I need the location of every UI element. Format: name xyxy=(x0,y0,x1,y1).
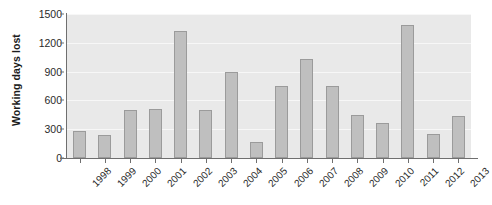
x-tick-mark xyxy=(357,159,358,163)
x-tick-label: 2009 xyxy=(368,166,391,189)
bar[interactable] xyxy=(300,59,313,158)
x-tick-label: 2007 xyxy=(317,166,340,189)
bar[interactable] xyxy=(326,86,339,158)
bar[interactable] xyxy=(452,116,465,158)
bar[interactable] xyxy=(225,72,238,158)
x-tick-mark xyxy=(433,159,434,163)
bar[interactable] xyxy=(401,25,414,158)
x-tick-label: 2005 xyxy=(267,166,290,189)
y-tick-mark xyxy=(60,14,64,15)
x-tick-mark xyxy=(383,159,384,163)
y-tick-mark xyxy=(60,100,64,101)
bar[interactable] xyxy=(73,131,86,158)
x-tick-label: 2002 xyxy=(191,166,214,189)
x-tick-label: 1999 xyxy=(115,166,138,189)
x-tick-mark xyxy=(458,159,459,163)
bar[interactable] xyxy=(124,110,137,158)
x-tick-label: 2012 xyxy=(444,166,467,189)
bars-group xyxy=(67,14,471,158)
bar[interactable] xyxy=(351,115,364,158)
x-tick-mark xyxy=(282,159,283,163)
x-tick-mark xyxy=(231,159,232,163)
y-tick-label: 900 xyxy=(28,66,62,77)
x-tick-mark xyxy=(408,159,409,163)
bar[interactable] xyxy=(199,110,212,158)
x-tick-label: 2001 xyxy=(166,166,189,189)
y-tick-label: 600 xyxy=(28,95,62,106)
x-tick-mark xyxy=(80,159,81,163)
y-tick-mark xyxy=(60,71,64,72)
x-tick-label: 2000 xyxy=(141,166,164,189)
x-tick-label: 2004 xyxy=(242,166,265,189)
x-tick-label: 2013 xyxy=(469,166,492,189)
y-tick-label: 0 xyxy=(28,153,62,164)
y-tick-mark xyxy=(60,42,64,43)
y-tick-label: 1200 xyxy=(28,38,62,49)
x-tick-mark xyxy=(105,159,106,163)
bar[interactable] xyxy=(98,135,111,158)
y-tick-label: 300 xyxy=(28,124,62,135)
bar[interactable] xyxy=(427,134,440,158)
y-axis-title-label: Working days lost xyxy=(10,34,22,126)
x-tick-mark xyxy=(332,159,333,163)
x-tick-label: 2003 xyxy=(216,166,239,189)
x-tick-label: 1998 xyxy=(90,166,113,189)
x-tick-label: 2008 xyxy=(343,166,366,189)
bar[interactable] xyxy=(149,109,162,158)
x-tick-mark xyxy=(307,159,308,163)
y-axis-ticks: 030060090012001500 xyxy=(24,0,62,205)
x-tick-mark xyxy=(130,159,131,163)
bar[interactable] xyxy=(174,31,187,158)
x-tick-mark xyxy=(206,159,207,163)
bar[interactable] xyxy=(376,123,389,158)
y-tick-mark xyxy=(60,129,64,130)
x-tick-label: 2011 xyxy=(418,166,440,188)
x-tick-label: 2010 xyxy=(393,166,416,189)
x-tick-mark xyxy=(256,159,257,163)
x-tick-label: 2006 xyxy=(292,166,315,189)
y-tick-label: 1500 xyxy=(28,9,62,20)
x-tick-mark xyxy=(181,159,182,163)
x-tick-mark xyxy=(155,159,156,163)
x-axis-line xyxy=(60,158,478,159)
bar[interactable] xyxy=(250,142,263,158)
bar[interactable] xyxy=(275,86,288,158)
plot-area xyxy=(67,14,471,158)
